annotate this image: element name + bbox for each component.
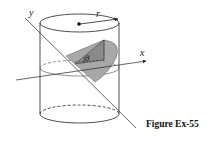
figure-caption: Figure Ex-55 bbox=[146, 119, 199, 129]
radius-arrow bbox=[80, 19, 118, 24]
x-axis-label: x bbox=[139, 47, 145, 58]
y-axis-label: y bbox=[28, 7, 34, 18]
radius-label: r bbox=[96, 8, 100, 19]
bottom-ellipse bbox=[40, 105, 119, 123]
angle-theta-label: θ bbox=[85, 53, 90, 63]
